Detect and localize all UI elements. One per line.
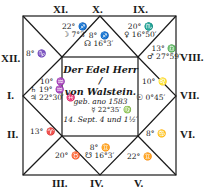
house-ix-content: 20° ♏ ♀ 16°50′ (124, 23, 156, 39)
house-x-content: 8° ♐ ☊ 16°3′ (84, 32, 113, 48)
house-label-ix: IX. (133, 4, 148, 15)
subject-name-line1: Der Edel Herr / (63, 64, 138, 86)
house-iii-content: 20° ♉ (55, 152, 80, 160)
center-mercury: ☿ 22°35′ ♍ (63, 106, 138, 115)
house-label-v: V. (134, 178, 143, 189)
house-xi-planet-moon: ☽ 7°3′ (62, 31, 87, 39)
house-label-x: X. (92, 4, 103, 15)
house-xi-content: 22° ♐ ☽ 7°3′ (62, 23, 87, 39)
house-xii-content: 8° ♑ (26, 50, 46, 58)
house-viii-content: 13° ♎ ♂ 27°59′ (147, 45, 181, 61)
house-vi-content: 8° ♋ (146, 130, 166, 138)
house-iii-cusp: 20° ♉ (55, 152, 80, 160)
house-xii-cusp: 8° ♑ (26, 50, 46, 58)
house-label-iii: III. (52, 178, 68, 189)
house-label-xi: XI. (53, 4, 68, 15)
house-vii-cusp: 10° ♌ (136, 78, 167, 86)
birth-date: 14. Sept. 4 und 1½′ (63, 115, 138, 124)
house-ix-planet-venus: ♀ 16°50′ (124, 31, 156, 39)
house-label-ii: II. (7, 129, 18, 140)
house-label-i: I. (7, 90, 14, 101)
house-vii-planet-sun: ☉ 0°45′ (136, 94, 167, 102)
house-iv-planet-node: ☋ 16°3′ (85, 152, 114, 160)
house-v-cusp: 22° ♊ (127, 153, 152, 161)
house-viii-planet-mars: ♂ 27°59′ (147, 53, 181, 61)
house-label-iv: IV. (90, 178, 104, 189)
house-label-viii: VIII. (180, 52, 204, 63)
house-v-content: 22° ♊ (127, 153, 152, 161)
house-label-vi: VI. (180, 129, 195, 140)
house-ii-content: 13° ♈ (30, 128, 55, 136)
birth-year: geb. ano 1583 (63, 97, 138, 106)
house-ii-cusp: 13° ♈ (30, 128, 55, 136)
house-label-xii: XII. (1, 53, 20, 64)
chart-center-box: Der Edel Herr / von Walstein. geb. ano 1… (63, 58, 138, 135)
house-vii-content: 10° ♌ ☉ 0°45′ (136, 78, 167, 102)
subject-name-line2: von Walstein. (63, 86, 138, 97)
house-x-planet-node: ☊ 16°3′ (84, 40, 113, 48)
house-vi-cusp: 8° ♋ (146, 130, 166, 138)
house-iv-content: 8° ♊ ☋ 16°3′ (85, 144, 114, 160)
house-label-vii: VII. (180, 90, 199, 101)
